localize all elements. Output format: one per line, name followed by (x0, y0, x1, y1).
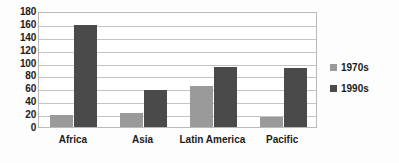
x-axis-tick-label: Africa (59, 134, 87, 145)
chart-legend: 1970s1990s (330, 62, 396, 104)
bar-pacific-1990s (284, 68, 307, 127)
y-axis: 020406080100120140160180 (6, 12, 36, 128)
bar-pacific-1970s (260, 117, 283, 127)
bar-asia-1970s (120, 113, 143, 127)
y-axis-tick-label: 40 (25, 97, 36, 107)
y-axis-tick-label: 100 (20, 59, 36, 69)
y-axis-tick-label: 20 (25, 110, 36, 120)
y-axis-tick-label: 0 (31, 123, 36, 133)
y-axis-tick-label: 80 (25, 71, 36, 81)
y-axis-tick-label: 180 (20, 7, 36, 17)
legend-item: 1970s (330, 62, 396, 73)
legend-swatch-icon (330, 85, 337, 92)
y-axis-tick-label: 140 (20, 33, 36, 43)
bar-latin-america-1970s (190, 86, 213, 127)
x-axis-tick-label: Latin America (179, 134, 245, 145)
bar-africa-1990s (74, 25, 97, 127)
bar-chart: 020406080100120140160180 AfricaAsiaLatin… (0, 0, 399, 163)
legend-item: 1990s (330, 83, 396, 94)
bars-layer (39, 13, 316, 127)
y-axis-tick-label: 60 (25, 84, 36, 94)
bar-asia-1990s (144, 90, 167, 127)
plot-area (38, 12, 317, 128)
x-axis-tick-label: Pacific (266, 134, 298, 145)
bar-latin-america-1990s (214, 67, 237, 127)
bar-africa-1970s (50, 115, 73, 127)
x-axis: AfricaAsiaLatin AmericaPacific (38, 134, 317, 154)
y-axis-tick-label: 160 (20, 20, 36, 30)
x-axis-tick-label: Asia (132, 134, 153, 145)
legend-label: 1990s (341, 84, 369, 94)
y-axis-tick-label: 120 (20, 46, 36, 56)
legend-swatch-icon (330, 64, 337, 71)
legend-label: 1970s (341, 63, 369, 73)
